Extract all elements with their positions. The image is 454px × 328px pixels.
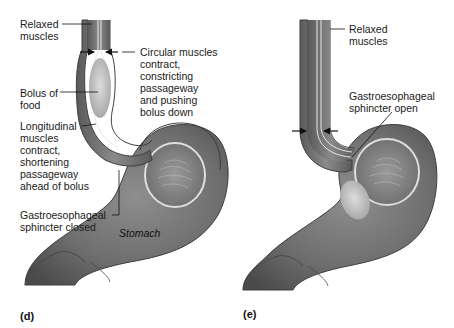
panel-label-e: (e) [243,308,256,320]
label-sphincter-open: Gastroesophageal sphincter open [349,90,435,114]
panel-label-d: (d) [20,310,34,322]
panel-e-art [243,20,437,290]
label-relaxed-muscles-d: Relaxed muscles [20,18,59,42]
label-bolus-of-food: Bolus of food [20,87,58,111]
label-stomach: Stomach [119,227,160,239]
label-longitudinal-muscles: Longitudinal muscles contract, shortenin… [20,120,89,192]
label-relaxed-muscles-e: Relaxed muscles [349,23,388,47]
label-sphincter-closed: Gastroesophageal sphincter closed [20,209,106,233]
label-circular-muscles: Circular muscles contract, constricting … [140,46,218,118]
peristalsis-diagram: Relaxed muscles Circular muscles contrac… [0,0,454,328]
